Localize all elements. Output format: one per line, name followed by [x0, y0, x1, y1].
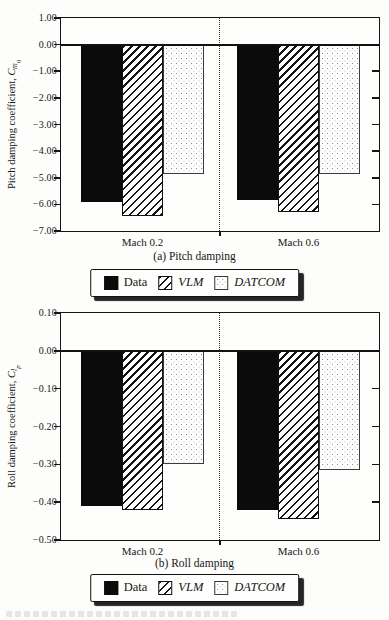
bar-vlm-mach-0.6 [278, 351, 319, 519]
pitch-damping-plot: 1.000.00−1.00−2.00−3.00−4.00−5.00−6.00−7… [60, 17, 380, 232]
bar-datcom-mach-0.6 [319, 45, 360, 174]
dots-swatch-icon [214, 276, 228, 290]
zero-axis-line [61, 44, 379, 46]
x-tick-mark [219, 231, 221, 236]
x-category-label: Mach 0.2 [93, 236, 193, 248]
cropped-text-fragment [6, 611, 238, 617]
y-tick-label: −0.30 [15, 458, 57, 470]
y-tick-mark [372, 464, 379, 466]
x-category-label: Mach 0.6 [249, 545, 349, 557]
y-tick-label: −0.40 [15, 496, 57, 508]
panel-caption-pitch: (a) Pitch damping [0, 250, 389, 262]
y-tick-label: −5.00 [15, 172, 57, 184]
y-tick-mark [372, 70, 379, 72]
legend-item-data: Data [104, 275, 148, 290]
bar-vlm-mach-0.2 [122, 351, 163, 510]
legend-pitch: Data VLM DATCOM [90, 269, 300, 297]
coefficient-subsubscript: q [14, 60, 22, 64]
y-tick-mark [54, 17, 61, 19]
bar-vlm-mach-0.2 [122, 45, 163, 217]
y-tick-label: −0.10 [15, 383, 57, 395]
legend-item-data: Data [104, 580, 148, 595]
zero-axis-line [61, 350, 379, 352]
y-tick-mark [372, 501, 379, 503]
y-tick-mark [54, 97, 61, 99]
y-tick-mark [54, 204, 61, 206]
bar-vlm-mach-0.6 [278, 45, 319, 213]
y-tick-mark [372, 426, 379, 428]
bar-data-mach-0.2 [81, 351, 122, 506]
y-tick-mark [372, 177, 379, 179]
y-tick-label: −1.00 [15, 65, 57, 77]
y-tick-label: 0.00 [15, 345, 57, 357]
y-tick-mark [54, 44, 61, 46]
bar-data-mach-0.6 [237, 351, 278, 510]
coefficient-symbol: C [6, 371, 17, 378]
bar-datcom-mach-0.2 [163, 45, 204, 174]
x-tick-mark [219, 540, 221, 545]
solid-swatch-icon [104, 276, 118, 290]
coefficient-subsubscript: p [14, 365, 22, 369]
y-tick-mark [54, 230, 61, 232]
category-divider-line [219, 313, 220, 540]
y-tick-label: −0.20 [15, 421, 57, 433]
y-tick-mark [54, 501, 61, 503]
bar-datcom-mach-0.6 [319, 351, 360, 470]
y-tick-mark [54, 539, 61, 541]
y-tick-mark [372, 124, 379, 126]
y-tick-label: 0.10 [15, 307, 57, 319]
y-tick-mark [372, 204, 379, 206]
legend-label-datcom: DATCOM [234, 275, 285, 290]
x-category-label: Mach 0.6 [249, 236, 349, 248]
roll-damping-plot: 0.100.00−0.10−0.20−0.30−0.40−0.50Mach 0.… [60, 312, 380, 541]
category-divider-line [219, 18, 220, 231]
hatch-swatch-icon [158, 581, 172, 595]
legend-label-vlm: VLM [178, 275, 203, 290]
y-tick-mark [54, 426, 61, 428]
legend-label-data: Data [124, 275, 148, 290]
y-tick-mark [372, 97, 379, 99]
panel-caption-roll: (b) Roll damping [0, 557, 389, 569]
y-tick-label: −2.00 [15, 92, 57, 104]
legend-item-datcom: DATCOM [214, 580, 285, 595]
x-category-label: Mach 0.2 [93, 545, 193, 557]
y-tick-mark [54, 124, 61, 126]
legend-roll: Data VLM DATCOM [90, 574, 300, 602]
y-tick-mark [54, 150, 61, 152]
dots-swatch-icon [214, 581, 228, 595]
bar-data-mach-0.6 [237, 45, 278, 201]
legend-item-vlm: VLM [158, 580, 203, 595]
y-tick-mark [54, 464, 61, 466]
legend-label-data: Data [124, 580, 148, 595]
damping-coefficients-figure: Pitch damping coefficient, Cmq 1.000.00−… [0, 0, 389, 620]
y-tick-mark [54, 70, 61, 72]
y-tick-mark [54, 350, 61, 352]
y-tick-label: −4.00 [15, 145, 57, 157]
bar-data-mach-0.2 [81, 45, 122, 202]
y-tick-label: 1.00 [15, 12, 57, 24]
y-tick-label: −3.00 [15, 119, 57, 131]
legend-label-vlm: VLM [178, 580, 203, 595]
bar-datcom-mach-0.2 [163, 351, 204, 465]
y-tick-mark [54, 388, 61, 390]
legend-item-vlm: VLM [158, 275, 203, 290]
y-tick-label: −0.50 [15, 534, 57, 546]
y-tick-label: −7.00 [15, 225, 57, 237]
y-tick-label: 0.00 [15, 39, 57, 51]
y-tick-mark [54, 177, 61, 179]
solid-swatch-icon [104, 581, 118, 595]
y-tick-mark [372, 388, 379, 390]
y-tick-mark [372, 150, 379, 152]
hatch-swatch-icon [158, 276, 172, 290]
y-tick-label: −6.00 [15, 198, 57, 210]
y-tick-mark [54, 312, 61, 314]
legend-label-datcom: DATCOM [234, 580, 285, 595]
legend-item-datcom: DATCOM [214, 275, 285, 290]
